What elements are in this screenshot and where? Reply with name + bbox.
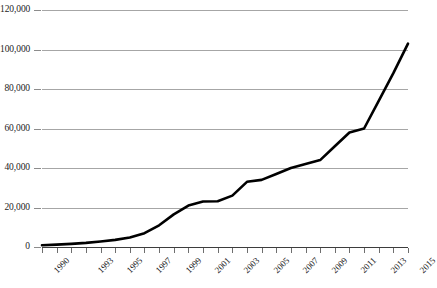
y-tick-dash-100000 bbox=[34, 50, 41, 51]
y-tick-dash-120000 bbox=[34, 10, 41, 11]
figure-caption bbox=[0, 283, 424, 288]
y-tick-label-20000: 20,000 bbox=[0, 203, 30, 213]
y-tick-dash-40000 bbox=[34, 168, 41, 169]
y-tick-label-100000: 100,000 bbox=[0, 45, 30, 55]
y-tick-dash-60000 bbox=[34, 129, 41, 130]
y-tick-label-80000: 80,000 bbox=[0, 84, 30, 94]
y-tick-label-60000: 60,000 bbox=[0, 124, 30, 134]
series-line-1 bbox=[42, 44, 408, 246]
y-tick-dash-80000 bbox=[34, 89, 41, 90]
y-tick-label-120000: 120,000 bbox=[0, 5, 30, 15]
y-tick-dash-20000 bbox=[34, 208, 41, 209]
y-tick-label-40000: 40,000 bbox=[0, 163, 30, 173]
y-tick-label-0: 0 bbox=[0, 242, 30, 252]
y-tick-dash-0 bbox=[34, 247, 41, 248]
